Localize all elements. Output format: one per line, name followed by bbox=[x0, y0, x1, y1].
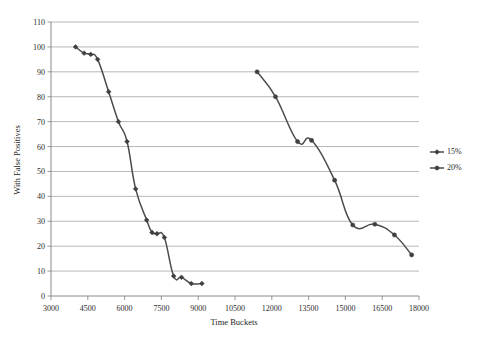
y-tick-label: 30 bbox=[37, 217, 45, 226]
x-tick-label: 16500 bbox=[372, 304, 392, 313]
y-tick-label: 70 bbox=[37, 118, 45, 127]
data-point-marker bbox=[162, 235, 167, 240]
y-tick-label: 20 bbox=[37, 242, 45, 251]
data-point-marker bbox=[309, 138, 313, 142]
data-point-marker bbox=[373, 222, 377, 226]
legend: 15%20% bbox=[430, 147, 462, 172]
legend-item-20pct[interactable]: 20% bbox=[430, 163, 462, 172]
x-axis-title: Time Buckets bbox=[210, 317, 257, 327]
legend-label: 20% bbox=[447, 163, 462, 172]
x-tick-label: 13500 bbox=[299, 304, 319, 313]
y-tick-labels: 0102030405060708090100110 bbox=[33, 18, 45, 301]
series-20pct bbox=[255, 70, 414, 257]
data-point-marker bbox=[133, 186, 138, 191]
data-point-marker bbox=[392, 233, 396, 237]
x-tick-label: 9000 bbox=[190, 304, 206, 313]
legend-marker-diamond bbox=[435, 150, 440, 155]
data-point-marker bbox=[88, 52, 93, 57]
series-15pct bbox=[73, 45, 204, 286]
data-series bbox=[73, 45, 414, 286]
data-point-marker bbox=[125, 139, 130, 144]
legend-marker-circle bbox=[435, 166, 439, 170]
x-tick-label: 12000 bbox=[262, 304, 282, 313]
y-axis bbox=[48, 22, 52, 296]
data-point-marker bbox=[410, 253, 414, 257]
x-tick-label: 4500 bbox=[80, 304, 96, 313]
x-tick-label: 3000 bbox=[43, 304, 59, 313]
x-tick-label: 10500 bbox=[225, 304, 245, 313]
data-point-marker bbox=[199, 281, 204, 286]
data-point-marker bbox=[273, 95, 277, 99]
data-point-marker bbox=[333, 178, 337, 182]
data-point-marker bbox=[116, 119, 121, 124]
x-tick-label: 15000 bbox=[335, 304, 355, 313]
data-point-marker bbox=[189, 281, 194, 286]
chart-container: 0102030405060708090100110 30004500600075… bbox=[0, 0, 488, 339]
y-tick-label: 60 bbox=[37, 143, 45, 152]
data-point-marker bbox=[171, 274, 176, 279]
x-tick-label: 7500 bbox=[153, 304, 169, 313]
legend-label: 15% bbox=[447, 147, 462, 156]
series-line bbox=[257, 72, 412, 255]
x-tick-label: 18000 bbox=[409, 304, 429, 313]
x-axis bbox=[51, 296, 419, 300]
y-tick-label: 40 bbox=[37, 192, 45, 201]
y-tick-label: 100 bbox=[33, 43, 45, 52]
x-tick-label: 6000 bbox=[117, 304, 133, 313]
y-tick-label: 0 bbox=[41, 292, 45, 301]
y-tick-label: 50 bbox=[37, 167, 45, 176]
data-point-marker bbox=[144, 218, 149, 223]
y-tick-label: 90 bbox=[37, 68, 45, 77]
data-point-marker bbox=[106, 89, 111, 94]
y-tick-label: 80 bbox=[37, 93, 45, 102]
line-chart: 0102030405060708090100110 30004500600075… bbox=[0, 0, 488, 339]
y-tick-label: 110 bbox=[33, 18, 45, 27]
y-tick-label: 10 bbox=[37, 267, 45, 276]
y-axis-title: With False Positives bbox=[12, 125, 22, 195]
data-point-marker bbox=[295, 139, 299, 143]
x-tick-labels: 3000450060007500900010500120001350015000… bbox=[43, 304, 429, 313]
plot-gridlines bbox=[51, 22, 419, 271]
series-line bbox=[76, 47, 202, 284]
legend-item-15pct[interactable]: 15% bbox=[430, 147, 462, 156]
data-point-marker bbox=[255, 70, 259, 74]
data-point-marker bbox=[155, 231, 160, 236]
data-point-marker bbox=[351, 223, 355, 227]
